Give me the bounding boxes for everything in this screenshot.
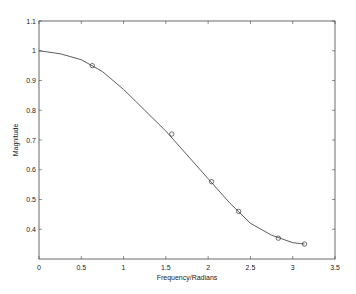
sample-marker: [209, 179, 213, 183]
plot-frame: [39, 21, 335, 259]
y-tick-label: 0.6: [26, 166, 36, 173]
x-tick-label: 2: [206, 264, 210, 271]
magnitude-chart: 00.511.522.533.50.40.50.60.70.80.911.1Fr…: [0, 0, 356, 294]
y-tick-label: 0.9: [26, 77, 36, 84]
x-tick-label: 1.5: [161, 264, 171, 271]
y-axis-label: Magnitude: [12, 124, 20, 157]
x-tick-label: 3.5: [330, 264, 340, 271]
y-tick-label: 1.1: [26, 18, 36, 25]
x-axis-label: Frequency/Radians: [157, 274, 218, 282]
y-tick-label: 0.7: [26, 137, 36, 144]
x-tick-label: 2.5: [246, 264, 256, 271]
y-tick-label: 0.8: [26, 107, 36, 114]
y-tick-label: 0.5: [26, 196, 36, 203]
sample-marker: [170, 132, 174, 136]
x-tick-label: 1: [122, 264, 126, 271]
x-tick-label: 3: [291, 264, 295, 271]
x-tick-label: 0.5: [76, 264, 86, 271]
magnitude-curve: [39, 51, 305, 244]
y-tick-label: 0.4: [26, 226, 36, 233]
x-tick-label: 0: [37, 264, 41, 271]
y-tick-label: 1: [32, 47, 36, 54]
